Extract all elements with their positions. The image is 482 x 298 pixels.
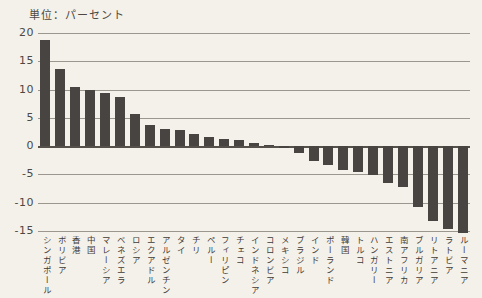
x-category-label: チリ [190,236,199,256]
x-category-label: ボリビア [56,236,65,276]
x-category-label: ラトビア [443,236,452,276]
x-category-label: 南アフリカ [399,236,408,286]
x-category-label: ロシア [131,236,140,266]
y-tick-label: 10 [1,83,34,97]
x-category-label: エクアドル [145,236,154,286]
y-tick-label: -15 [1,224,34,238]
x-category-label: エストニア [384,236,393,286]
y-tick-label: 15 [1,54,34,68]
x-category-label: 香港 [71,236,80,256]
x-category-label: 中国 [86,236,95,256]
x-category-label: フィリピン [220,236,229,286]
x-category-label: 韓国 [339,236,348,256]
y-tick-label: 0 [1,139,34,153]
y-tick-label: 5 [1,111,34,125]
x-category-label: ルーマニア [458,236,467,286]
x-category-label: ブラジル [294,236,303,276]
x-category-label: ペルー [205,236,214,266]
x-category-label: リトアニア [429,236,438,286]
x-category-label: コロンビア [265,236,274,286]
x-category-label: マレーシア [101,236,110,286]
x-axis-labels: シンガポールボリビア香港中国マレーシアベネズエラロシアエクアドルアルゼンチンタイ… [0,0,482,298]
bar-chart: 単位：パーセント シンガポールボリビア香港中国マレーシアベネズエラロシアエクアド… [0,0,482,298]
x-category-label: メキシコ [280,236,289,276]
x-category-label: ポーランド [324,236,333,286]
x-category-label: ブルガリア [414,236,423,286]
x-category-label: シンガポール [41,236,50,296]
x-category-label: ハンガリー [369,236,378,286]
x-category-label: インド [309,236,318,266]
y-tick-label: -5 [1,167,34,181]
y-tick-label: 20 [1,26,34,40]
x-category-label: チェコ [235,236,244,266]
x-category-label: トルコ [354,236,363,266]
y-tick-label: -10 [1,196,34,210]
x-category-label: タイ [175,236,184,256]
x-category-label: インドネシア [250,236,259,296]
x-category-label: ベネズエラ [116,236,125,286]
x-category-label: アルゼンチン [160,236,169,296]
